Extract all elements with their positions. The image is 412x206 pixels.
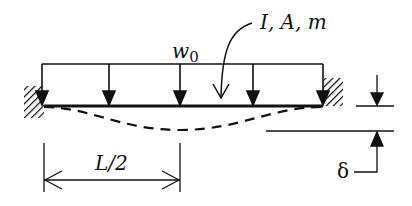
load-arrow-icon — [174, 64, 186, 105]
beam-diagram: w0 I, A, m L/2 δ — [0, 0, 412, 206]
half-span-label: L/2 — [94, 151, 128, 175]
load-arrow-icon — [103, 64, 115, 105]
properties-pointer-icon — [221, 23, 252, 97]
deflection-label: δ — [337, 159, 349, 183]
delta-top-arrow-icon — [371, 75, 383, 105]
load-arrows — [36, 64, 329, 105]
load-label: w0 — [172, 39, 199, 66]
deflected-shape — [44, 107, 323, 130]
load-arrow-icon — [247, 64, 259, 105]
delta-bottom-arrow-icon — [354, 132, 383, 172]
properties-label: I, A, m — [259, 10, 327, 34]
